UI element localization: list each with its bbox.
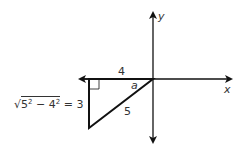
y-axis-label: y bbox=[158, 11, 165, 22]
x-axis-label: x bbox=[224, 84, 231, 95]
angle-label: a bbox=[131, 80, 138, 91]
right-angle-marker bbox=[89, 79, 99, 89]
equation-result: = 3 bbox=[60, 98, 83, 111]
radicand: 52 − 42 bbox=[21, 96, 60, 111]
vertical-leg-equation: √52 − 42 = 3 bbox=[14, 99, 83, 110]
horizontal-leg-label: 4 bbox=[118, 66, 125, 77]
radical-sign: √ bbox=[14, 98, 21, 111]
hypotenuse-label: 5 bbox=[124, 106, 131, 117]
